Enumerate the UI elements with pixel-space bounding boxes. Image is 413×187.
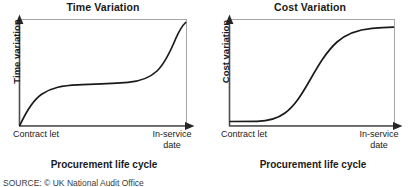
- x-axis-label-time-variation: Procurement life cycle: [8, 159, 200, 170]
- data-curve-cost-variation: [230, 27, 394, 121]
- plot-frame: [20, 20, 187, 126]
- x-tick-label-in-service-date: In-service date: [355, 129, 403, 150]
- plot-area-time-variation: [0, 0, 206, 145]
- chart-panel-cost-variation: Cost Variation Cost variation Contract l…: [207, 0, 413, 180]
- x-tick-label-in-service-date: In-service date: [148, 129, 196, 150]
- y-axis-label-time-variation: Time variation: [11, 8, 22, 96]
- figure-container: Time Variation Time variation Contract l…: [0, 0, 413, 187]
- x-tick-label-in-service-line2: date: [370, 140, 388, 150]
- y-axis-label-cost-variation: Cost variation: [220, 8, 231, 96]
- x-axis-label-cost-variation: Procurement life cycle: [217, 159, 409, 170]
- x-tick-label-in-service-line1: In-service: [359, 129, 398, 139]
- chart-panel-time-variation: Time Variation Time variation Contract l…: [0, 0, 206, 180]
- x-tick-label-contract-let: Contract let: [13, 129, 59, 140]
- x-tick-label-contract-let: Contract let: [221, 129, 267, 140]
- x-tick-label-in-service-line1: In-service: [152, 129, 191, 139]
- plot-area-cost-variation: [207, 0, 413, 145]
- source-note: SOURCE: © UK National Audit Office: [3, 178, 144, 187]
- x-tick-label-in-service-line2: date: [163, 140, 181, 150]
- plot-frame: [230, 20, 395, 126]
- data-curve-time-variation: [20, 23, 186, 126]
